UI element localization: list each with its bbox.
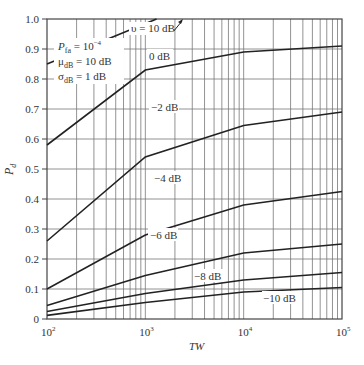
label-minus8db: −8 dB [194,270,221,282]
label-10db: υ = 10 dB [131,22,175,34]
x-tick-label: 104 [238,325,253,338]
label-minus10db: −10 dB [263,292,296,304]
y-tick-label: 0.1 [25,283,39,295]
x-tick-label: 103 [139,325,154,338]
curve-2 [47,112,342,241]
y-axis-label: Pd [2,163,18,176]
y-tick-label: 0.2 [25,253,39,265]
label-minus4db: −4 dB [154,172,181,184]
y-tick-label: 1.0 [25,13,39,25]
y-axis-ticks: 00.10.20.30.40.50.60.70.80.91.0 [25,13,47,325]
y-tick-label: 0 [34,313,40,325]
y-tick-label: 0.5 [25,163,39,175]
x-tick-label: 105 [336,325,351,338]
label-minus2db: −2 dB [151,101,178,113]
y-tick-label: 0.9 [25,43,39,55]
detection-probability-chart: 00.10.20.30.40.50.60.70.80.91.0 10210310… [0,0,364,365]
y-tick-label: 0.8 [25,73,39,85]
y-tick-label: 0.7 [25,103,39,115]
y-tick-label: 0.3 [25,223,39,235]
y-tick-label: 0.6 [25,133,39,145]
x-axis-label: TW [189,340,205,352]
x-axis-ticks: 102103104105 [41,325,351,338]
svg-text:Pd: Pd [2,163,18,176]
series-labels: υ = 10 dB 0 dB −2 dB −4 dB −6 dB −8 dB −… [129,22,298,304]
y-tick-label: 0.4 [25,193,39,205]
parameter-legend: Pfa = 10−4 μdB = 10 dB σdB = 1 dB [54,38,124,85]
label-minus6db: −6 dB [150,229,177,241]
label-0db: 0 dB [149,50,170,62]
x-tick-label: 102 [41,325,56,338]
